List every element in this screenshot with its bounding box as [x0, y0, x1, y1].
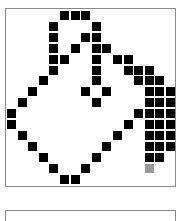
pixel-cell-filled[interactable]	[92, 98, 101, 107]
pixel-cell-filled[interactable]	[155, 109, 164, 118]
pixel-cell-filled[interactable]	[155, 153, 164, 162]
pixel-cell-filled[interactable]	[49, 44, 58, 53]
pixel-cell-filled[interactable]	[60, 175, 69, 184]
pixel-cell-filled[interactable]	[145, 131, 154, 140]
pixel-editor-canvas[interactable]	[5, 8, 176, 187]
pixel-cell-filled[interactable]	[145, 153, 154, 162]
pixel-cell-filled[interactable]	[28, 142, 37, 151]
pixel-cell-filled[interactable]	[39, 153, 48, 162]
pixel-cell-filled[interactable]	[92, 33, 101, 42]
pixel-cell-filled[interactable]	[60, 55, 69, 64]
pixel-cell-filled[interactable]	[145, 142, 154, 151]
pixel-cell-filled[interactable]	[28, 87, 37, 96]
pixel-cell-filled[interactable]	[155, 87, 164, 96]
pixel-cell-filled[interactable]	[145, 76, 154, 85]
pixel-cell-filled[interactable]	[134, 109, 143, 118]
pixel-cell-filled[interactable]	[102, 87, 111, 96]
pixel-cell-filled[interactable]	[7, 120, 16, 129]
pixel-cell-filled[interactable]	[49, 164, 58, 173]
pixel-cell-filled[interactable]	[71, 44, 80, 53]
pixel-cell-filled[interactable]	[7, 109, 16, 118]
pixel-cell-filled[interactable]	[81, 87, 90, 96]
pixel-cell-filled[interactable]	[155, 131, 164, 140]
pixel-cell-filled[interactable]	[39, 76, 48, 85]
pixel-cell-filled[interactable]	[166, 109, 175, 118]
pixel-cell-filled[interactable]	[92, 76, 101, 85]
pixel-cell-dim[interactable]	[145, 164, 154, 173]
pixel-cell-filled[interactable]	[49, 66, 58, 75]
pixel-cell-filled[interactable]	[18, 98, 27, 107]
pixel-cell-filled[interactable]	[49, 22, 58, 31]
pixel-cell-filled[interactable]	[113, 55, 122, 64]
pixel-cell-filled[interactable]	[155, 142, 164, 151]
pixel-cell-filled[interactable]	[124, 120, 133, 129]
pixel-cell-filled[interactable]	[92, 55, 101, 64]
pixel-cell-filled[interactable]	[134, 66, 143, 75]
pixel-cell-filled[interactable]	[134, 76, 143, 85]
pixel-cell-filled[interactable]	[102, 142, 111, 151]
pixel-cell-filled[interactable]	[145, 66, 154, 75]
pixel-cell-filled[interactable]	[155, 120, 164, 129]
pixel-cell-filled[interactable]	[166, 131, 175, 140]
pixel-cell-filled[interactable]	[145, 87, 154, 96]
pixel-cell-filled[interactable]	[155, 98, 164, 107]
pixel-cell-filled[interactable]	[145, 109, 154, 118]
pixel-cell-filled[interactable]	[113, 131, 122, 140]
pixel-cell-filled[interactable]	[102, 44, 111, 53]
pixel-cell-filled[interactable]	[81, 33, 90, 42]
preview-panel	[5, 210, 176, 221]
pixel-cell-filled[interactable]	[71, 11, 80, 20]
pixel-cell-filled[interactable]	[166, 120, 175, 129]
pixel-cell-filled[interactable]	[124, 66, 133, 75]
pixel-cell-filled[interactable]	[124, 55, 133, 64]
pixel-cell-filled[interactable]	[92, 66, 101, 75]
pixel-cell-filled[interactable]	[60, 11, 69, 20]
pixel-cell-filled[interactable]	[166, 142, 175, 151]
pixel-cell-filled[interactable]	[92, 44, 101, 53]
pixel-cell-filled[interactable]	[71, 175, 80, 184]
pixel-cell-filled[interactable]	[49, 55, 58, 64]
pixel-cell-filled[interactable]	[145, 98, 154, 107]
pixel-cell-filled[interactable]	[166, 87, 175, 96]
pixel-cell-filled[interactable]	[81, 11, 90, 20]
pixel-cell-filled[interactable]	[145, 120, 154, 129]
pixel-cell-filled[interactable]	[81, 164, 90, 173]
pixel-cell-filled[interactable]	[92, 22, 101, 31]
pixel-cell-filled[interactable]	[155, 76, 164, 85]
pixel-cell-filled[interactable]	[49, 33, 58, 42]
pixel-cell-filled[interactable]	[166, 98, 175, 107]
pixel-cell-filled[interactable]	[92, 153, 101, 162]
pixel-cell-filled[interactable]	[18, 131, 27, 140]
